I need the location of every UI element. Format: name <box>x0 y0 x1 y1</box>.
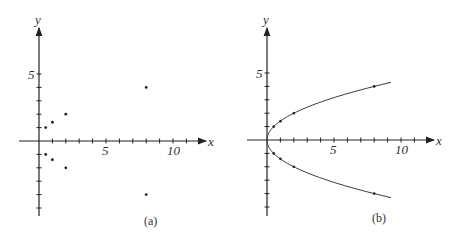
data-point <box>145 86 148 89</box>
panel-caption: (a) <box>144 214 157 228</box>
data-point <box>44 126 47 129</box>
y-axis-label: y <box>261 12 269 27</box>
data-point <box>279 157 282 160</box>
data-point <box>64 113 67 116</box>
data-point <box>293 166 296 169</box>
panel-caption: (b) <box>372 211 386 225</box>
data-point <box>51 121 54 124</box>
data-point <box>145 193 148 196</box>
data-point <box>293 112 296 115</box>
panel-a: x y 5 10 5 (a) <box>19 12 214 228</box>
x-tick-label-10: 10 <box>167 143 181 158</box>
data-point <box>373 192 376 195</box>
panel-b: x y 5 10 5 (b) <box>247 12 442 225</box>
data-point <box>51 158 54 161</box>
data-point <box>272 125 275 128</box>
data-point <box>373 85 376 88</box>
x-axis-label: x <box>435 133 442 148</box>
y-tick-label-5: 5 <box>256 66 263 81</box>
data-point <box>279 120 282 123</box>
data-point <box>272 152 275 155</box>
x-tick-label-5: 5 <box>330 142 337 157</box>
data-point <box>44 153 47 156</box>
x-tick-label-10: 10 <box>395 142 409 157</box>
x-axis-label: x <box>207 134 214 149</box>
y-tick-label-5: 5 <box>28 67 35 82</box>
data-point <box>64 166 67 169</box>
y-axis-label: y <box>33 12 41 27</box>
x-tick-label-5: 5 <box>102 143 109 158</box>
figure: x y 5 10 5 (a) x y 5 10 5 (b) <box>0 0 454 238</box>
